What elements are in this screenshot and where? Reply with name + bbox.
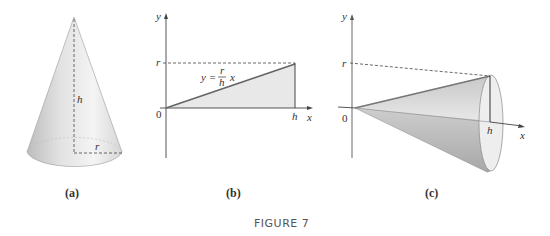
y-axis-label: y [155,10,161,22]
panel-a: h r (a) [27,17,122,200]
equation: y = r h x [200,64,235,88]
figure-7: h r (a) y r 0 h x y = r h x (b) FIGURE [0,0,550,236]
y-axis-arrow-icon [164,13,168,19]
equation-lhs: y = [200,71,216,83]
h-tick-label: h [292,110,298,122]
panel-c-label: (c) [425,186,438,200]
panel-b: y r 0 h x y = r h x (b) [155,10,313,200]
r-tick-label: r [156,56,161,68]
x-axis-label: x [519,129,525,141]
origin-label: 0 [156,108,162,120]
h-tick-label: h [487,124,493,136]
x-axis-label: x [306,111,312,123]
r-dashed-line [350,63,490,76]
y-axis-arrow-icon [350,14,354,20]
equation-rhs: x [229,71,235,83]
height-label: h [77,93,83,105]
x-axis-arrow-icon [518,124,525,128]
equation-numerator: r [220,64,225,76]
panel-a-label: (a) [65,186,79,200]
figure-caption: FIGURE 7 [254,217,309,230]
panel-c: y r 0 h x (c) [338,10,525,200]
radius-label: r [95,140,100,152]
panel-b-label: (b) [226,186,241,200]
y-axis-label: y [341,10,347,22]
x-axis-left [338,107,356,108]
origin-label: 0 [342,112,348,124]
cone-body [27,17,122,167]
x-axis-arrow-icon [307,106,313,110]
r-tick-label: r [342,57,347,69]
equation-denominator: h [219,76,225,88]
